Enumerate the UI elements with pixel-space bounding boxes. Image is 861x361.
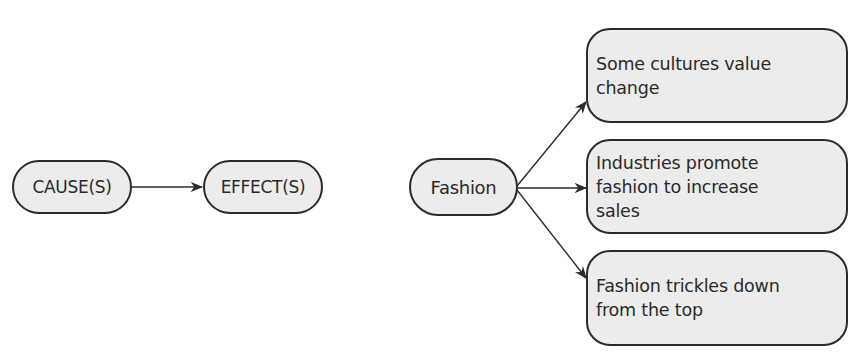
effect-label: EFFECT(S)	[221, 177, 306, 197]
arrow-fashion-to-effect-1	[517, 102, 586, 186]
effect-box-2: Industries promote fashion to increase s…	[586, 139, 848, 234]
effect-box-2-label: Industries promote fashion to increase s…	[596, 151, 806, 223]
effect-box-3-label: Fashion trickles down from the top	[596, 274, 821, 322]
effect-node: EFFECT(S)	[203, 160, 323, 214]
effect-box-3: Fashion trickles down from the top	[586, 250, 848, 346]
effect-box-1: Some cultures value change	[586, 28, 848, 123]
effect-box-1-label: Some cultures value change	[596, 52, 796, 100]
fashion-label: Fashion	[431, 177, 497, 198]
cause-label: CAUSE(S)	[32, 177, 111, 197]
fashion-node: Fashion	[409, 158, 518, 216]
arrow-fashion-to-effect-3	[517, 190, 586, 278]
cause-node: CAUSE(S)	[12, 160, 132, 214]
